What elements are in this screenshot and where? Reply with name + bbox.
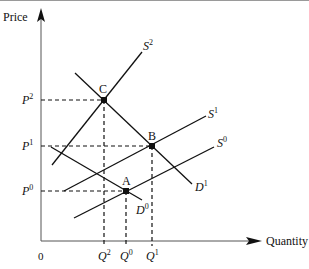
curve-label-s1: S1 xyxy=(208,106,218,121)
price-label-p1: P1 xyxy=(21,138,33,153)
quantity-label-q1: Q1 xyxy=(146,248,159,263)
curve-label-s2: S2 xyxy=(143,38,153,53)
curve-label-s0: S0 xyxy=(217,135,227,150)
point-b-label: B xyxy=(148,129,156,143)
quantity-label-q2: Q2 xyxy=(98,248,111,263)
curve-label-d0: D0 xyxy=(135,202,149,217)
origin-label: 0 xyxy=(38,250,44,262)
x-axis-label: Quantity xyxy=(266,234,308,248)
supply-demand-diagram: Price Quantity 0 C B A P2 P1 P0 Q2 Q0 Q1… xyxy=(0,0,309,269)
price-label-p0: P0 xyxy=(21,183,33,198)
equilibrium-point-c xyxy=(101,97,107,103)
equilibrium-point-b xyxy=(149,143,155,149)
supply-curve-s1 xyxy=(64,116,206,191)
supply-curve-s2 xyxy=(52,52,142,165)
point-a-label: A xyxy=(122,174,131,188)
y-axis xyxy=(37,8,45,241)
y-axis-label: Price xyxy=(3,10,28,24)
curve-label-d1: D1 xyxy=(194,179,208,194)
equilibrium-point-a xyxy=(123,188,129,194)
quantity-label-q0: Q0 xyxy=(120,248,133,263)
demand-curve-d1 xyxy=(75,73,192,184)
price-label-p2: P2 xyxy=(21,92,33,107)
point-c-label: C xyxy=(99,82,107,96)
